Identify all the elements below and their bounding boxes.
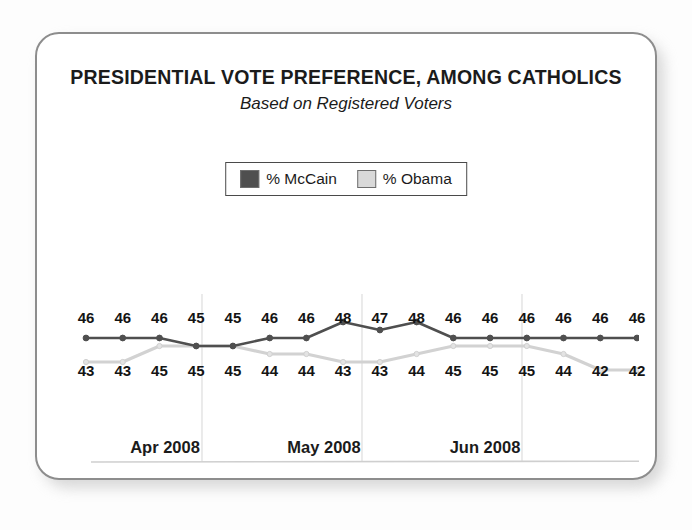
data-labels-layer: 4646464545464648474846464646464643434545… <box>37 234 659 354</box>
data-label-bottom: 44 <box>298 362 315 379</box>
data-label-top: 47 <box>372 309 389 326</box>
data-label-bottom: 45 <box>225 362 242 379</box>
data-label-bottom: 44 <box>261 362 278 379</box>
data-label-bottom: 43 <box>335 362 352 379</box>
data-label-top: 46 <box>114 309 131 326</box>
x-axis-tick-label: Jun 2008 <box>450 438 521 457</box>
data-label-bottom: 45 <box>518 362 535 379</box>
legend-swatch-mccain-icon <box>240 170 259 188</box>
data-label-top: 48 <box>335 309 352 326</box>
data-label-top: 45 <box>188 309 205 326</box>
x-axis-tick-label: May 2008 <box>287 438 360 457</box>
data-label-top: 46 <box>592 309 609 326</box>
legend-label-mccain: % McCain <box>266 170 337 188</box>
page-title: PRESIDENTIAL VOTE PREFERENCE, AMONG CATH… <box>37 66 655 89</box>
data-label-top: 46 <box>555 309 572 326</box>
page-subtitle: Based on Registered Voters <box>37 94 655 114</box>
data-label-bottom: 42 <box>629 362 646 379</box>
data-label-top: 46 <box>261 309 278 326</box>
data-label-bottom: 43 <box>372 362 389 379</box>
legend-item-obama: % Obama <box>357 170 452 188</box>
data-label-bottom: 45 <box>445 362 462 379</box>
data-label-top: 46 <box>298 309 315 326</box>
data-label-bottom: 45 <box>482 362 499 379</box>
data-label-top: 46 <box>78 309 95 326</box>
data-label-bottom: 43 <box>78 362 95 379</box>
legend-item-mccain: % McCain <box>240 170 337 188</box>
chart-card: PRESIDENTIAL VOTE PREFERENCE, AMONG CATH… <box>35 32 657 480</box>
chart-screenshot: PRESIDENTIAL VOTE PREFERENCE, AMONG CATH… <box>0 0 692 530</box>
data-label-top: 48 <box>408 309 425 326</box>
data-label-top: 46 <box>518 309 535 326</box>
data-label-top: 46 <box>482 309 499 326</box>
data-label-top: 46 <box>151 309 168 326</box>
legend-label-obama: % Obama <box>383 170 452 188</box>
data-label-bottom: 44 <box>408 362 425 379</box>
x-axis-tick-label: Apr 2008 <box>130 438 200 457</box>
data-label-top: 45 <box>225 309 242 326</box>
chart-legend: % McCain % Obama <box>225 162 467 196</box>
data-label-top: 46 <box>445 309 462 326</box>
x-axis-labels: Apr 2008May 2008Jun 2008 <box>37 438 659 468</box>
data-label-bottom: 45 <box>151 362 168 379</box>
data-label-bottom: 43 <box>114 362 131 379</box>
data-label-bottom: 45 <box>188 362 205 379</box>
data-label-top: 46 <box>629 309 646 326</box>
legend-swatch-obama-icon <box>357 170 376 188</box>
data-label-bottom: 44 <box>555 362 572 379</box>
data-label-bottom: 42 <box>592 362 609 379</box>
